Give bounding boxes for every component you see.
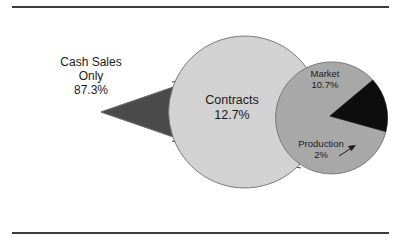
contracts-slice[interactable] (101, 87, 173, 137)
chart-canvas (0, 0, 399, 244)
detail-pie (276, 62, 388, 174)
pie-chart-figure: Cash Sales Only 87.3% Contracts 12.7% Ma… (0, 0, 399, 244)
